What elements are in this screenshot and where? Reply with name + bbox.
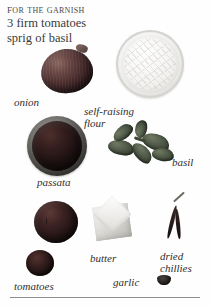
onion-photo [39,46,95,95]
dried-chilli-photo [174,209,181,239]
passata-caption: passata [37,176,71,188]
garnish-ingredient-line-1: 3 firm tomatoes [7,16,157,31]
cookbook-page: For the garnish 3 firm tomatoes sprig of… [0,0,210,307]
butter-photo [92,199,134,243]
chilli-stalk [173,192,185,203]
tomato-photo-small [26,250,54,276]
garlic-caption: garlic [113,276,139,288]
tomato-photo-large [34,201,78,243]
self-raising-flour-photo [116,30,184,98]
garnish-heading-title: For the garnish [7,2,157,16]
garlic-photo [157,275,171,285]
footer-divider [10,297,200,298]
basil-photo [108,122,182,174]
tomatoes-caption: tomatoes [14,280,54,292]
butter-caption: butter [90,252,116,264]
basil-caption: basil [172,156,193,168]
onion-caption: onion [14,96,39,108]
passata-photo [27,116,87,176]
dried-chillies-caption: dried chillies [160,250,192,274]
